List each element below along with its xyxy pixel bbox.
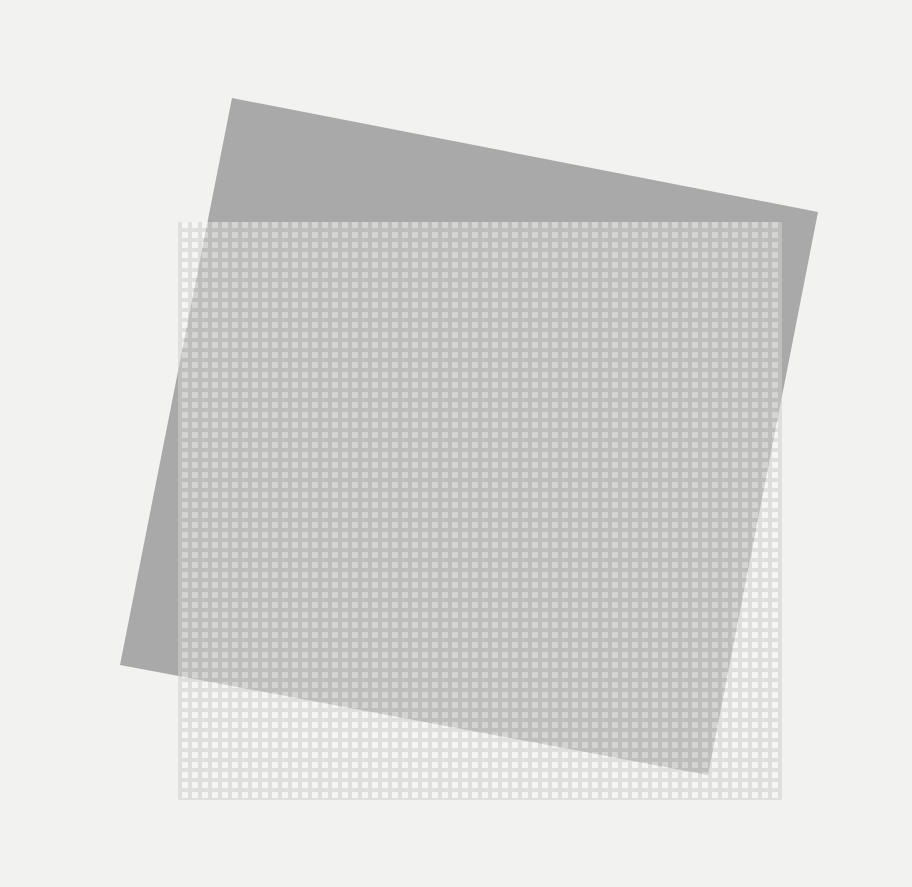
grid-rectangle bbox=[178, 222, 782, 800]
artwork-canvas bbox=[0, 0, 912, 887]
